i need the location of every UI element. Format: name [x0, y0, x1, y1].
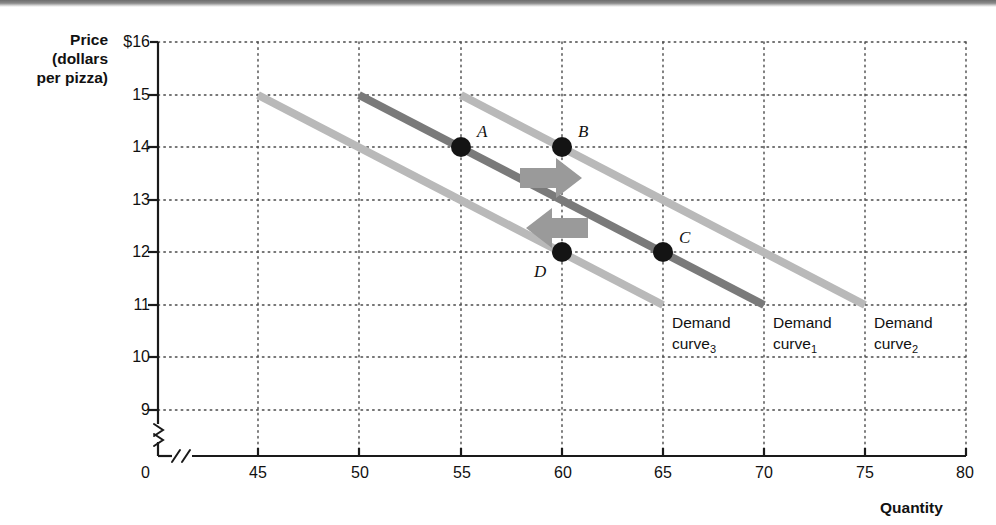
demand-curve-3	[258, 95, 663, 305]
data-point-label-b: B	[578, 122, 588, 142]
x-axis	[158, 448, 966, 456]
y-axis	[148, 42, 158, 456]
data-point-label-d: D	[534, 262, 546, 282]
demand-curve-1-label-line1: Demand	[773, 314, 832, 331]
x-axis-break-mark	[172, 450, 190, 462]
demand-curve-2-label-subscript: 2	[912, 343, 918, 355]
demand-curve-1-label-line2: curve	[773, 335, 811, 352]
y-axis-break-mark	[154, 424, 163, 446]
demand-curve-2-label-line2: curve	[874, 335, 912, 352]
vertical-gridlines	[258, 42, 966, 456]
demand-curve-3-label-line1: Demand	[672, 314, 731, 331]
demand-curve-2-label: Demand curve2	[874, 312, 933, 360]
demand-curve-2-label-line1: Demand	[874, 314, 933, 331]
data-point-label-a: A	[477, 122, 487, 142]
data-point-a	[451, 137, 471, 157]
data-point-d	[552, 242, 572, 262]
demand-curve-3-label-line2: curve	[672, 335, 710, 352]
demand-curve-1-label: Demand curve1	[773, 312, 832, 360]
demand-curve-3-label: Demand curve3	[672, 312, 731, 360]
data-point-b	[552, 137, 572, 157]
plot-canvas	[0, 0, 996, 525]
demand-curve-3-label-subscript: 3	[710, 343, 716, 355]
data-point-label-c: C	[679, 228, 690, 248]
data-point-c	[653, 242, 673, 262]
chart-figure: Price (dollars per pizza) Quantity $16 1…	[0, 0, 996, 525]
demand-curve-1-label-subscript: 1	[811, 343, 817, 355]
